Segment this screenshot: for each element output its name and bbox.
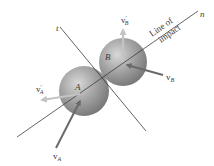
- vA-prime-label: v′A: [36, 84, 44, 95]
- impact-diagram: A B n t Line of impact v′B vB v′A vA: [0, 0, 214, 166]
- svg-text:v′A: v′A: [36, 84, 44, 95]
- t-axis-label: t: [56, 23, 59, 33]
- vB-prime-label: v′B: [121, 15, 129, 26]
- line-of-impact-label: Line of impact: [147, 14, 182, 47]
- sphere-a-label: A: [74, 82, 81, 92]
- sphere-a: [59, 66, 109, 116]
- vA-label: vA: [53, 151, 62, 162]
- vB-label: vB: [166, 72, 175, 83]
- svg-text:v′B: v′B: [121, 15, 129, 26]
- n-axis-label: n: [200, 9, 205, 19]
- svg-text:vB: vB: [166, 72, 175, 83]
- sphere-b-label: B: [105, 52, 111, 62]
- svg-text:vA: vA: [53, 151, 62, 162]
